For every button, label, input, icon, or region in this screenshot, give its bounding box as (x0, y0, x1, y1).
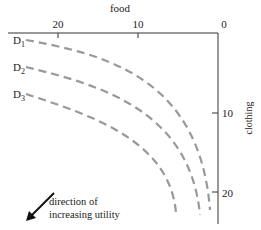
y-tick-10: 10 (222, 107, 234, 119)
x-tick-20: 20 (53, 18, 65, 30)
x-tick-0: 0 (221, 18, 227, 30)
x-tick-10: 10 (133, 18, 145, 30)
curve-label-d3: D3 (13, 88, 25, 103)
x-axis-label: food (110, 2, 131, 14)
arrow-annotation-line2: increasing utility (49, 209, 121, 220)
arrow-annotation-line1: direction of (49, 196, 98, 207)
curve-d1 (26, 40, 210, 210)
curve-label-d2: D2 (13, 61, 25, 76)
curve-label-d1: D1 (13, 34, 25, 49)
indifference-curve-diagram: food 20 10 0 10 20 clothing D1 D2 D3 dir… (0, 0, 261, 230)
curve-d2 (26, 67, 200, 215)
y-tick-20: 20 (222, 187, 234, 199)
y-axis-label: clothing (243, 102, 254, 135)
